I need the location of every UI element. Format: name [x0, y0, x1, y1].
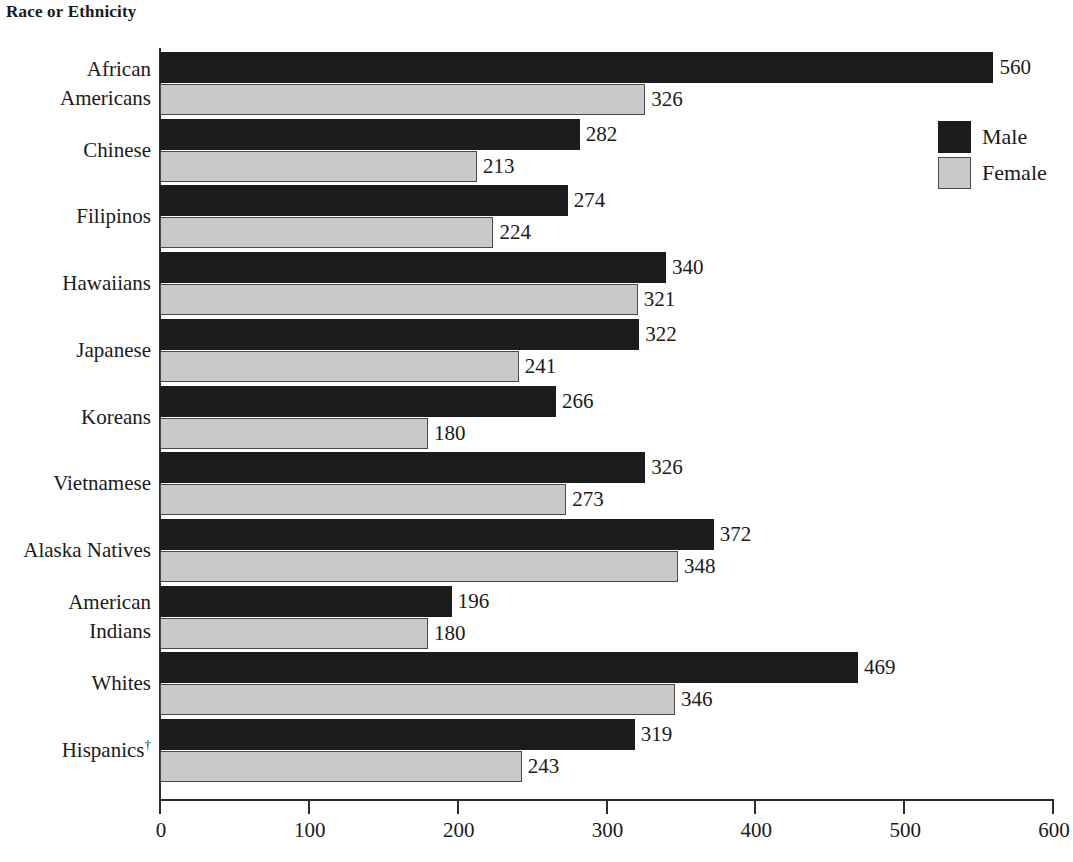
- x-axis-tick-label: 0: [131, 818, 191, 843]
- x-axis-tick: [903, 801, 905, 814]
- bar-value-female-3: 321: [644, 284, 676, 315]
- bar-female-4[interactable]: [160, 351, 519, 382]
- bar-male-2[interactable]: [160, 185, 568, 216]
- category-label-1: Chinese: [83, 136, 151, 165]
- bar-value-male-10: 319: [641, 719, 673, 750]
- category-label-0: AfricanAmericans: [60, 55, 151, 113]
- category-label-9: Whites: [92, 669, 151, 698]
- bar-value-male-6: 326: [651, 452, 683, 483]
- bar-value-male-1: 282: [586, 119, 618, 150]
- bar-female-2[interactable]: [160, 217, 493, 248]
- bar-value-male-5: 266: [562, 386, 594, 417]
- bar-value-female-9: 346: [681, 684, 713, 715]
- bar-male-6[interactable]: [160, 452, 645, 483]
- bar-female-0[interactable]: [160, 84, 645, 115]
- plot-area: 0100200300400500600 AfricanAmericansChin…: [0, 0, 1073, 862]
- bar-male-3[interactable]: [160, 252, 666, 283]
- bar-female-7[interactable]: [160, 551, 678, 582]
- bar-male-10[interactable]: [160, 719, 635, 750]
- dagger-footnote-marker: †: [145, 737, 152, 752]
- bar-value-female-7: 348: [684, 551, 716, 582]
- category-label-7: Alaska Natives: [23, 536, 151, 565]
- x-axis-tick: [308, 801, 310, 814]
- bar-value-male-8: 196: [458, 586, 490, 617]
- bar-male-1[interactable]: [160, 119, 580, 150]
- male-swatch-icon: [938, 121, 971, 153]
- bar-female-8[interactable]: [160, 618, 428, 649]
- category-label-10: Hispanics†: [62, 736, 151, 765]
- bar-value-female-0: 326: [651, 84, 683, 115]
- bar-value-male-9: 469: [864, 652, 896, 683]
- bar-female-6[interactable]: [160, 484, 566, 515]
- bar-male-0[interactable]: [160, 52, 993, 83]
- bar-value-male-0: 560: [999, 52, 1031, 83]
- x-axis-tick: [606, 801, 608, 814]
- bar-male-9[interactable]: [160, 652, 858, 683]
- x-axis-tick-label: 400: [726, 818, 786, 843]
- bar-female-3[interactable]: [160, 284, 638, 315]
- bar-value-female-1: 213: [483, 151, 515, 182]
- category-label-2: Filipinos: [76, 202, 151, 231]
- legend-item-male[interactable]: Male: [938, 120, 1068, 156]
- legend-item-female[interactable]: Female: [938, 156, 1068, 192]
- legend-label-female: Female: [982, 156, 1047, 190]
- category-label-3: Hawaiians: [62, 269, 151, 298]
- bar-female-10[interactable]: [160, 751, 522, 782]
- bar-male-4[interactable]: [160, 319, 639, 350]
- category-label-8: AmericanIndians: [68, 588, 151, 646]
- bar-male-8[interactable]: [160, 586, 452, 617]
- x-axis-tick: [457, 801, 459, 814]
- x-axis-tick-label: 600: [1024, 818, 1073, 843]
- x-axis-tick: [754, 801, 756, 814]
- x-axis-tick-label: 200: [429, 818, 489, 843]
- bar-value-male-3: 340: [672, 252, 704, 283]
- bar-value-male-7: 372: [720, 519, 752, 550]
- bar-female-5[interactable]: [160, 418, 428, 449]
- bar-value-male-2: 274: [574, 185, 606, 216]
- bar-value-male-4: 322: [645, 319, 677, 350]
- bar-value-female-2: 224: [499, 217, 531, 248]
- x-axis-tick-label: 500: [875, 818, 935, 843]
- legend-label-male: Male: [982, 120, 1027, 154]
- category-label-4: Japanese: [76, 336, 151, 365]
- bar-value-female-6: 273: [572, 484, 604, 515]
- x-axis-tick: [159, 801, 161, 814]
- bar-female-9[interactable]: [160, 684, 675, 715]
- bar-value-female-8: 180: [434, 618, 466, 649]
- female-swatch-icon: [938, 157, 971, 189]
- bar-value-female-10: 243: [528, 751, 560, 782]
- bar-female-1[interactable]: [160, 151, 477, 182]
- bar-value-female-5: 180: [434, 418, 466, 449]
- bar-male-7[interactable]: [160, 519, 714, 550]
- category-label-6: Vietnamese: [53, 469, 151, 498]
- x-axis-tick-label: 300: [578, 818, 638, 843]
- category-label-5: Koreans: [81, 403, 151, 432]
- x-axis-tick-label: 100: [280, 818, 340, 843]
- bar-value-female-4: 241: [525, 351, 557, 382]
- legend: Male Female: [938, 120, 1068, 192]
- bar-male-5[interactable]: [160, 386, 556, 417]
- x-axis-tick: [1052, 801, 1054, 814]
